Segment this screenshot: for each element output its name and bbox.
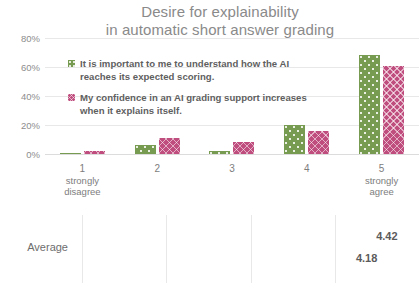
bar-pair bbox=[344, 38, 419, 154]
x-axis-tick-1: 1stronglydisagree bbox=[45, 163, 120, 198]
bar-green-3 bbox=[209, 151, 230, 154]
y-axis-tick-0: 0% bbox=[0, 149, 40, 160]
average-bars: 4.42 4.18 bbox=[82, 227, 419, 275]
bar-pink-5 bbox=[383, 66, 404, 154]
x-axis-tick-5: 5stronglyagree bbox=[344, 163, 419, 198]
average-value-green: 4.42 bbox=[376, 230, 397, 242]
average-row-label: Average bbox=[2, 241, 68, 253]
bar-green-1 bbox=[60, 153, 81, 155]
average-bar-chart: Average 4.42 4.18 bbox=[0, 215, 419, 287]
legend-swatch-pink-icon bbox=[68, 94, 75, 101]
bar-pink-1 bbox=[84, 151, 105, 154]
bar-group-5 bbox=[344, 38, 419, 154]
y-axis-tick-80: 80% bbox=[0, 33, 40, 44]
legend-swatch-green-icon bbox=[68, 60, 75, 67]
chart-title-line-1: Desire for explainability bbox=[60, 3, 380, 21]
average-row-green: 4.42 bbox=[82, 227, 419, 248]
x-tick-number: 5 bbox=[344, 163, 419, 175]
bar-pink-3 bbox=[233, 142, 254, 154]
bar-green-2 bbox=[135, 145, 156, 154]
bar-green-5 bbox=[359, 55, 380, 154]
x-tick-number: 3 bbox=[195, 163, 270, 175]
x-tick-sublabel-2: disagree bbox=[45, 186, 120, 198]
y-axis-tick-20: 20% bbox=[0, 120, 40, 131]
chart-legend: It is important to me to understand how … bbox=[68, 58, 328, 126]
average-bar-pink bbox=[82, 249, 350, 270]
x-tick-number: 2 bbox=[120, 163, 195, 175]
bar-pink-2 bbox=[159, 138, 180, 154]
x-axis-tick-4: 4 bbox=[269, 163, 344, 175]
bar-green-4 bbox=[284, 125, 305, 154]
chart-title-line-2: in automatic short answer grading bbox=[60, 21, 380, 39]
average-bar-green bbox=[82, 227, 370, 248]
legend-item-1[interactable]: It is important to me to understand how … bbox=[68, 58, 328, 83]
bar-pink-4 bbox=[308, 131, 329, 154]
x-tick-number: 4 bbox=[269, 163, 344, 175]
average-value-pink: 4.18 bbox=[356, 252, 377, 264]
cut-off-caption bbox=[0, 288, 419, 301]
gridline-0 bbox=[45, 154, 419, 155]
x-axis-labels: 1stronglydisagree2345stronglyagree bbox=[45, 163, 419, 208]
average-row-pink: 4.18 bbox=[82, 249, 419, 270]
legend-label-1-line-2: reaches its expected scoring. bbox=[80, 71, 328, 84]
legend-item-2[interactable]: My confidence in an AI grading support i… bbox=[68, 92, 328, 117]
y-axis-tick-60: 60% bbox=[0, 62, 40, 73]
x-axis-tick-2: 2 bbox=[120, 163, 195, 175]
x-tick-sublabel-2: agree bbox=[344, 186, 419, 198]
x-tick-sublabel-1: strongly bbox=[45, 175, 120, 187]
y-axis-tick-40: 40% bbox=[0, 91, 40, 102]
legend-label-2-line-1: My confidence in an AI grading support i… bbox=[80, 92, 328, 105]
chart-figure: Desire for explainability in automatic s… bbox=[0, 0, 419, 301]
legend-label-2-line-2: when it explains itself. bbox=[80, 105, 328, 118]
x-tick-sublabel-1: strongly bbox=[344, 175, 419, 187]
chart-title: Desire for explainability in automatic s… bbox=[60, 3, 380, 39]
legend-label-1-line-1: It is important to me to understand how … bbox=[80, 58, 328, 71]
x-tick-number: 1 bbox=[45, 163, 120, 175]
x-axis-tick-3: 3 bbox=[195, 163, 270, 175]
